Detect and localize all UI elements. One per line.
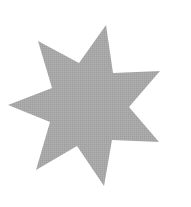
canvas	[0, 0, 191, 207]
star-icon	[8, 25, 160, 186]
star-shape	[0, 0, 191, 207]
